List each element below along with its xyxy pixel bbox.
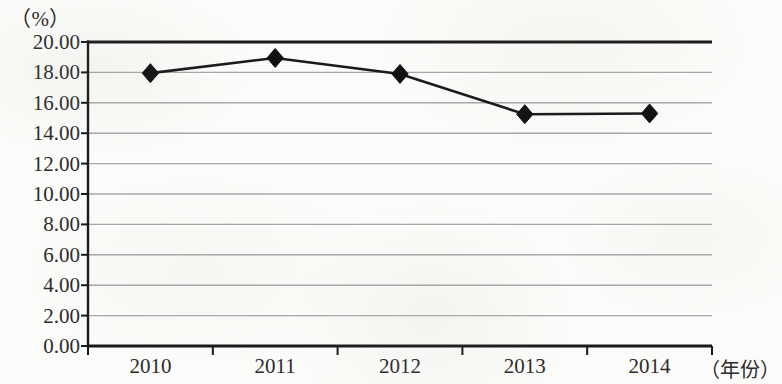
x-axis-tick-label: 2010	[129, 354, 171, 379]
x-axis-tick-label: 2014	[629, 354, 671, 379]
x-axis-tick-label: 2011	[255, 354, 296, 379]
x-axis-tick-label-group: 20102011201220132014	[0, 0, 782, 384]
chart-figure: （%） 20.0018.0016.0014.0012.0010.008.006.…	[0, 0, 782, 384]
x-axis-unit-label: （年份）	[700, 354, 780, 383]
x-axis-tick-label: 2012	[379, 354, 421, 379]
x-axis-tick-label: 2013	[504, 354, 546, 379]
